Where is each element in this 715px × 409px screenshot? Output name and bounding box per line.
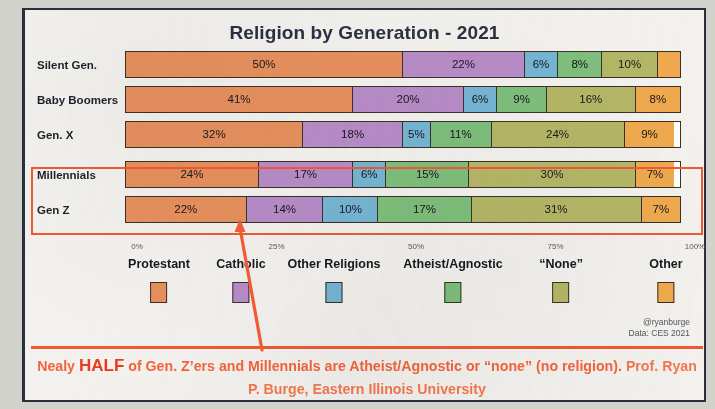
bar-segment-value: 50%: [252, 59, 275, 71]
bar-segment-value: 20%: [397, 94, 420, 106]
bar-segment-value: 41%: [228, 94, 251, 106]
legend-swatch: [658, 282, 675, 303]
caption-emphasis: HALF: [79, 356, 124, 375]
bar-segment-value: 18%: [341, 129, 364, 141]
legend-item[interactable]: Catholic: [216, 258, 265, 303]
bar-segment: 32%: [126, 122, 303, 147]
legend-item[interactable]: “None”: [539, 258, 583, 303]
bar-segment: 31%: [472, 197, 642, 222]
bar-segment: 24%: [126, 162, 259, 187]
bar-segment: 41%: [126, 87, 353, 112]
bar-row: Baby Boomers41%20%6%9%16%8%: [25, 85, 709, 114]
chart-legend: ProtestantCatholicOther ReligionsAtheist…: [25, 258, 709, 320]
bar-segment: 6%: [464, 87, 497, 112]
bar-segment: 15%: [386, 162, 469, 187]
bar-track: 24%17%6%15%30%7%: [125, 161, 681, 188]
bar-row: Silent Gen.50%22%6%8%10%: [25, 50, 709, 79]
bar-segment-value: 8%: [649, 94, 666, 106]
axis-tick-label: 50%: [408, 242, 424, 251]
category-label: Baby Boomers: [25, 94, 125, 106]
bar-segment: 16%: [547, 87, 636, 112]
caption-lead: Nealy: [37, 358, 79, 374]
bar-segment: 8%: [636, 87, 680, 112]
bar-segment: 22%: [403, 52, 525, 77]
bar-segment: 20%: [353, 87, 464, 112]
bar-segment: 14%: [247, 197, 324, 222]
screenshot-root: Religion by Generation - 2021 Silent Gen…: [0, 0, 715, 409]
bar-segment: 6%: [353, 162, 386, 187]
bar-segment: 7%: [642, 197, 680, 222]
bar-segment: 11%: [431, 122, 492, 147]
legend-swatch: [553, 282, 570, 303]
bar-segment-value: 7%: [653, 204, 670, 216]
bar-segment: 8%: [558, 52, 602, 77]
bar-track: 50%22%6%8%10%: [125, 51, 681, 78]
bar-segment: 9%: [497, 87, 547, 112]
bar-segment-value: 6%: [361, 169, 378, 181]
caption-text: Nealy HALF of Gen. Z’ers and Millennials…: [35, 354, 699, 399]
bar-segment-value: 24%: [180, 169, 203, 181]
bar-track: 32%18%5%11%24%9%: [125, 121, 681, 148]
legend-label: Atheist/Agnostic: [403, 258, 502, 271]
bar-segment-value: 6%: [533, 59, 550, 71]
legend-label: Protestant: [128, 258, 190, 271]
bar-segment: 24%: [492, 122, 625, 147]
page-title: Religion by Generation - 2021: [25, 22, 704, 44]
bar-segment-value: 11%: [450, 129, 472, 141]
bar-segment: 6%: [525, 52, 558, 77]
category-label: Gen. X: [25, 129, 125, 141]
author-handle: @ryanburge: [629, 317, 690, 328]
legend-item[interactable]: Protestant: [128, 258, 190, 303]
bar-segment: 17%: [259, 162, 353, 187]
bar-segment-value: 10%: [339, 204, 362, 216]
bar-segment-value: 9%: [513, 94, 530, 106]
legend-swatch: [233, 282, 250, 303]
bar-row: Gen Z22%14%10%17%31%7%: [25, 195, 709, 224]
bar-segment-value: 14%: [273, 204, 296, 216]
bar-segment: 22%: [126, 197, 247, 222]
caption-divider: [31, 346, 703, 349]
axis-tick-label: 100%: [685, 242, 705, 251]
bar-segment-value: 15%: [416, 169, 439, 181]
category-label: Millennials: [25, 169, 125, 181]
legend-swatch: [325, 282, 342, 303]
bar-segment: [658, 52, 680, 77]
bar-segment: 18%: [303, 122, 403, 147]
bar-track: 41%20%6%9%16%8%: [125, 86, 681, 113]
legend-swatch: [445, 282, 462, 303]
bar-segment: 50%: [126, 52, 403, 77]
bar-segment-value: 22%: [174, 204, 197, 216]
bar-segment: 10%: [602, 52, 657, 77]
legend-label: Other: [649, 258, 682, 271]
legend-item[interactable]: Atheist/Agnostic: [403, 258, 502, 303]
axis-tick-label: 75%: [547, 242, 563, 251]
legend-label: Catholic: [216, 258, 265, 271]
stacked-bar-plot: Silent Gen.50%22%6%8%10%Baby Boomers41%2…: [25, 50, 709, 246]
bar-segment-value: 17%: [413, 204, 436, 216]
bar-segment: 10%: [323, 197, 378, 222]
legend-label: Other Religions: [287, 258, 380, 271]
axis-tick-label: 0%: [131, 242, 143, 251]
bar-row: Gen. X32%18%5%11%24%9%: [25, 120, 709, 149]
bar-segment-value: 10%: [618, 59, 641, 71]
bar-segment-value: 22%: [452, 59, 475, 71]
bar-segment: 7%: [636, 162, 675, 187]
bar-segment-value: 6%: [472, 94, 489, 106]
x-axis: 0%25%50%75%100%: [137, 242, 695, 258]
bar-segment-value: 5%: [408, 129, 425, 141]
category-label: Silent Gen.: [25, 59, 125, 71]
bar-segment-value: 31%: [545, 204, 568, 216]
bar-track: 22%14%10%17%31%7%: [125, 196, 681, 223]
bar-segment: 17%: [378, 197, 471, 222]
bar-row: Millennials24%17%6%15%30%7%: [25, 160, 709, 189]
category-label: Gen Z: [25, 204, 125, 216]
bar-segment: 9%: [625, 122, 675, 147]
bar-segment-value: 32%: [203, 129, 226, 141]
bar-segment-value: 24%: [546, 129, 569, 141]
legend-item[interactable]: Other Religions: [287, 258, 380, 303]
chart-card: Religion by Generation - 2021 Silent Gen…: [22, 8, 706, 402]
bar-segment-value: 8%: [571, 59, 588, 71]
legend-item[interactable]: Other: [649, 258, 682, 303]
bar-segment-value: 9%: [641, 129, 658, 141]
axis-tick-label: 25%: [268, 242, 284, 251]
